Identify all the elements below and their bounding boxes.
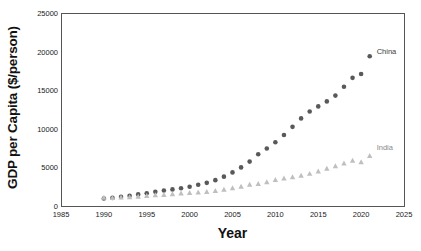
x-tick-label: 1985 <box>53 210 70 219</box>
x-tick-label: 2025 <box>396 210 413 219</box>
series-label-china: China <box>377 47 397 56</box>
x-tick-label: 2000 <box>181 210 198 219</box>
series-label-india: India <box>377 143 393 152</box>
x-tick-label: 2020 <box>353 210 370 219</box>
x-axis-title: Year <box>61 225 404 241</box>
x-tick-label: 2005 <box>224 210 241 219</box>
x-tick-label: 2010 <box>267 210 284 219</box>
x-tick-label: 1990 <box>96 210 113 219</box>
x-tick-label: 2015 <box>310 210 327 219</box>
x-axis-tick-labels: 198519901995200020052010201520202025 <box>0 0 421 251</box>
x-tick-label: 1995 <box>138 210 155 219</box>
chart-figure: GDP per Capita ($/person) 05000100001500… <box>0 0 421 251</box>
